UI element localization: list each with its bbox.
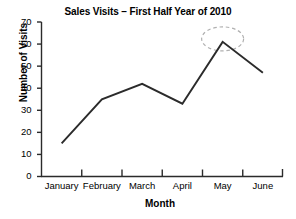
- x-tick-label: May: [203, 180, 243, 191]
- x-tick-label: January: [42, 180, 82, 191]
- y-tick-label: 70: [8, 17, 32, 27]
- data-line-series: [62, 42, 263, 144]
- x-tick-label: March: [122, 180, 162, 191]
- sales-visits-line-chart: Sales Visits – First Half Year of 2010 N…: [0, 0, 296, 219]
- x-tick-label: April: [162, 180, 202, 191]
- may-peak-highlight-ellipse: [202, 27, 244, 51]
- x-axis-ticks: [82, 170, 243, 177]
- x-tick-label: June: [243, 180, 283, 191]
- y-tick-label: 30: [8, 105, 32, 115]
- x-tick-label: February: [82, 180, 122, 191]
- y-tick-label: 40: [8, 83, 32, 93]
- y-tick-label: 50: [8, 61, 32, 71]
- y-tick-label: 20: [8, 127, 32, 137]
- y-tick-label: 10: [8, 149, 32, 159]
- y-tick-label: 60: [8, 39, 32, 49]
- y-tick-label: 0: [8, 171, 32, 181]
